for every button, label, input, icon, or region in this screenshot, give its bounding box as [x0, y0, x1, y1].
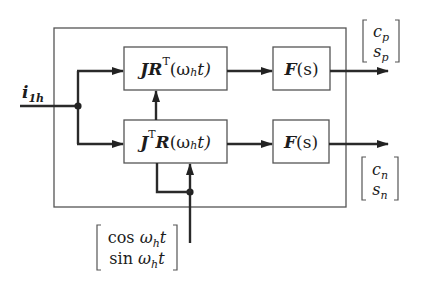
top-transform-main: JR	[140, 59, 162, 79]
reference-cos-fn: cos	[108, 228, 140, 247]
bottom-transform-label: JTR(ωht)	[124, 120, 227, 163]
top-transform-arg-end: t)	[197, 59, 210, 79]
top-transform-label: JRT(ωht)	[124, 47, 227, 90]
bottom-filter-label: F(s)	[273, 120, 329, 163]
negative-output-c: c	[372, 160, 381, 179]
reference-sin-t: t	[158, 249, 164, 268]
input-label-sub: 1h	[28, 92, 44, 105]
bottom-filter-name: F	[284, 132, 296, 152]
top-transform-arg-sub: h	[190, 66, 197, 79]
reference-vector: cos ωht sin ωht	[97, 225, 177, 270]
input-junction-dot	[74, 102, 81, 109]
top-transform-arg: (ω	[170, 59, 191, 79]
bottom-transform-arg: (ω	[170, 132, 191, 152]
top-transform-sup: T	[162, 55, 169, 68]
top-filter-label: F(s)	[273, 47, 330, 90]
top-filter-name: F	[284, 59, 296, 79]
negative-output-vector: cn sn	[362, 157, 398, 200]
reference-cos-var: ω	[140, 228, 153, 247]
top-filter-arg: (s)	[297, 59, 319, 79]
bottom-transform-arg-sub: h	[190, 139, 197, 152]
bottom-transform-j: J	[140, 132, 148, 152]
positive-output-c: c	[373, 22, 382, 41]
bottom-transform-arg-end: t)	[197, 132, 210, 152]
negative-output-s-sub: n	[381, 189, 388, 202]
bottom-filter-arg: (s)	[296, 132, 318, 152]
positive-output-s: s	[373, 42, 381, 61]
positive-output-s-sub: p	[382, 51, 389, 64]
reference-sin-fn: sin	[109, 249, 138, 268]
positive-output-vector: cp sp	[363, 20, 399, 62]
bottom-transform-sup: T	[148, 128, 155, 141]
reference-to-bottom-block-line	[157, 163, 190, 192]
input-label: i1h	[22, 84, 44, 101]
negative-output-s: s	[372, 180, 380, 199]
reference-sin-var: ω	[138, 249, 151, 268]
reference-cos-t: t	[160, 228, 166, 247]
reference-sin-sub: h	[151, 258, 158, 271]
bottom-transform-r: R	[156, 132, 170, 152]
